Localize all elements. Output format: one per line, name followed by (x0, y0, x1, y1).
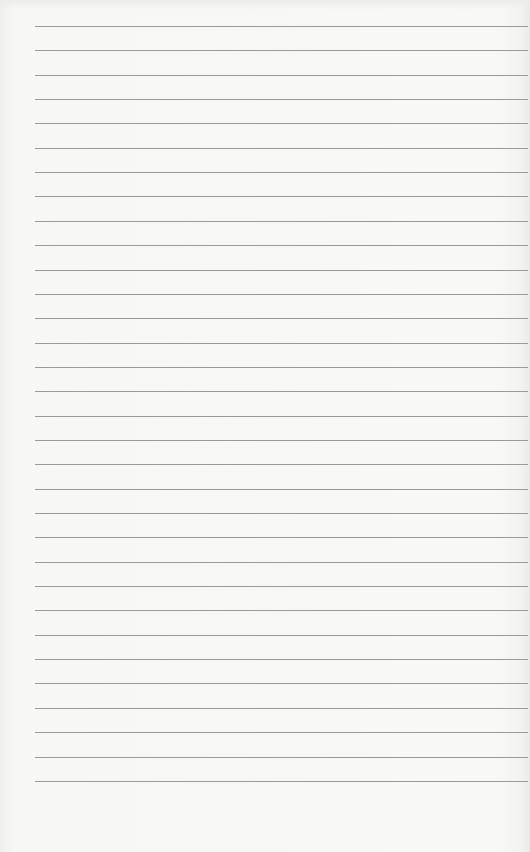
ruled-line (35, 489, 528, 490)
ruled-line (35, 343, 528, 344)
lined-paper-page (0, 0, 530, 852)
ruled-line (35, 586, 528, 587)
ruled-line (35, 635, 528, 636)
ruled-line (35, 367, 528, 368)
ruled-line (35, 172, 528, 173)
ruled-line (35, 732, 528, 733)
ruled-line (35, 757, 528, 758)
ruled-line (35, 537, 528, 538)
ruled-line (35, 196, 528, 197)
ruled-line (35, 123, 528, 124)
ruled-line (35, 610, 528, 611)
ruled-line (35, 513, 528, 514)
ruled-line (35, 294, 528, 295)
ruled-line (35, 659, 528, 660)
ruled-line (35, 318, 528, 319)
top-edge-shadow (0, 0, 530, 10)
ruled-line (35, 391, 528, 392)
ruled-line (35, 781, 528, 782)
ruled-line (35, 50, 528, 51)
ruled-line (35, 562, 528, 563)
ruled-line (35, 245, 528, 246)
ruled-line (35, 75, 528, 76)
ruled-line (35, 464, 528, 465)
ruled-line (35, 440, 528, 441)
ruled-line (35, 416, 528, 417)
ruled-line (35, 683, 528, 684)
ruled-line (35, 221, 528, 222)
ruled-line (35, 148, 528, 149)
ruled-line (35, 708, 528, 709)
ruled-line (35, 26, 528, 27)
ruled-line (35, 99, 528, 100)
ruled-line (35, 270, 528, 271)
